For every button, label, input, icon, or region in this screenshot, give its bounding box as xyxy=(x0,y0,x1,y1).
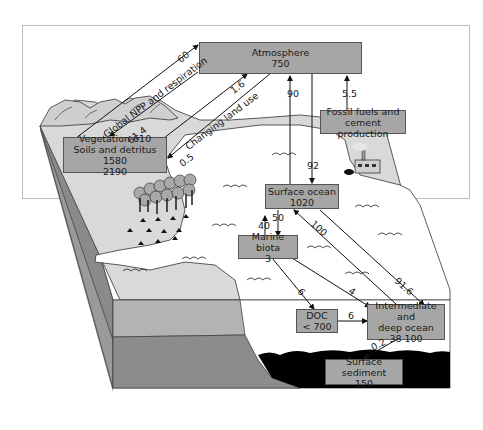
deep-ocean-box: Intermediate and deep ocean 38 100 xyxy=(367,304,445,340)
atmosphere-box: Atmosphere 750 xyxy=(199,42,362,74)
doc-label: DOC xyxy=(297,310,337,321)
vegetation-total: 2190 xyxy=(64,166,166,177)
flux-50: 50 xyxy=(272,212,284,223)
vegetation-label: Vegetation 610 xyxy=(64,133,166,144)
atmosphere-value: 750 xyxy=(200,58,361,70)
shelf-mid-layer xyxy=(113,300,245,337)
soils-label: Soils and detritus 1580 xyxy=(64,144,166,166)
surface-ocean-value: 1020 xyxy=(266,197,338,208)
deep-ocean-label-1: Intermediate and xyxy=(368,300,444,322)
flux-40: 40 xyxy=(258,220,270,231)
fossil-fuels-box: Fossil fuels and cement production xyxy=(320,110,406,134)
vegetation-box: Vegetation 610 Soils and detritus 1580 2… xyxy=(63,137,167,173)
doc-box: DOC < 700 xyxy=(296,309,338,333)
doc-value: < 700 xyxy=(297,321,337,332)
sediment-box: Surface sediment 150 xyxy=(325,359,403,385)
flux-92: 92 xyxy=(307,160,319,171)
sediment-value: 150 xyxy=(326,378,402,389)
flux-6-deep: 6 xyxy=(348,310,354,321)
deep-ocean-label-2: deep ocean xyxy=(368,322,444,333)
fossil-label-2: cement production xyxy=(321,117,405,139)
fossil-label-1: Fossil fuels and xyxy=(321,106,405,117)
surface-ocean-box: Surface ocean 1020 xyxy=(265,184,339,209)
atmosphere-label: Atmosphere xyxy=(200,47,361,59)
flux-90: 90 xyxy=(287,88,299,99)
marine-biota-box: Marine biota 3 xyxy=(238,235,298,259)
flux-5-5: 5.5 xyxy=(342,88,357,99)
surface-ocean-label: Surface ocean xyxy=(266,186,338,197)
marine-biota-value: 3 xyxy=(239,253,297,264)
marine-biota-label: Marine biota xyxy=(239,231,297,253)
sediment-label: Surface sediment xyxy=(326,356,402,378)
